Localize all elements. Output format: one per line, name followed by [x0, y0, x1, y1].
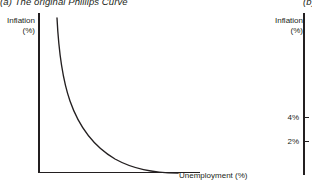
- panel-b-tick-label-4pct: 4%: [265, 113, 299, 122]
- panel-original-phillips-curve: (a) The original Phillips Curve Inflatio…: [0, 0, 200, 187]
- panel-b-y-axis-label-line2: (%): [263, 26, 303, 36]
- panel-b-tick-mark-4pct: [304, 117, 309, 118]
- panel-a-plot-area: [0, 0, 200, 187]
- panel-b-y-axis-label-line1: Inflation: [263, 16, 303, 26]
- panel-expectations-augmented-curve: (b) The Inflation (%) 4% 2%: [255, 0, 312, 187]
- panel-b-tick-mark-2pct: [304, 141, 309, 142]
- panel-b-y-axis-line: [303, 13, 305, 175]
- panel-a-x-axis-label: Unemployment (%): [179, 171, 247, 181]
- panel-b-title: (b) The: [303, 0, 312, 8]
- phillips-curve-line: [57, 18, 178, 173]
- panel-b-tick-label-2pct: 2%: [265, 137, 299, 146]
- panel-b-y-axis-label: Inflation (%): [263, 16, 303, 35]
